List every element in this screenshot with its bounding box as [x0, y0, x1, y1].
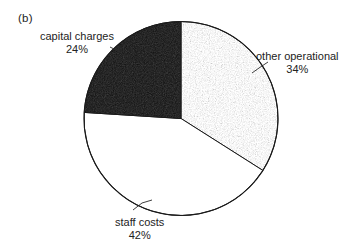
slice-label-capital-charges-name: capital charges	[40, 30, 114, 42]
slice-label-staff-costs-name: staff costs	[115, 216, 164, 228]
slice-label-other-operational: other operational 34%	[256, 50, 339, 75]
slice-label-other-operational-value: 34%	[256, 63, 339, 76]
slice-label-capital-charges: capital charges 24%	[40, 30, 114, 55]
pie-chart-figure: (b)	[0, 0, 351, 251]
slice-label-other-operational-name: other operational	[256, 50, 339, 62]
slice-label-staff-costs-value: 42%	[115, 229, 164, 242]
slice-label-capital-charges-value: 24%	[40, 43, 114, 56]
slice-label-staff-costs: staff costs 42%	[115, 216, 164, 241]
